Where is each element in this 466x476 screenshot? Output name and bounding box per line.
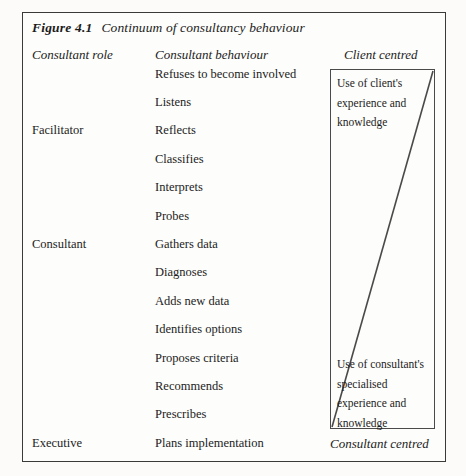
consultant-experience-text-line: knowledge bbox=[337, 414, 424, 434]
consultant-behaviour-label: Reflects bbox=[155, 121, 196, 139]
consultant-experience-text-line: experience and bbox=[337, 394, 424, 414]
consultant-behaviour-label: Prescribes bbox=[155, 405, 206, 423]
consultant-experience-text-line: specialised bbox=[337, 375, 424, 395]
consultant-experience-text-line: Use of consultant's bbox=[337, 355, 424, 375]
consultant-experience-text-block: Use of consultant'sspecialisedexperience… bbox=[337, 355, 424, 433]
continuum-row: Listens bbox=[0, 93, 330, 111]
consultant-behaviour-label: Plans implementation bbox=[155, 434, 264, 452]
consultant-behaviour-label: Proposes criteria bbox=[155, 349, 239, 367]
continuum-row: Diagnoses bbox=[0, 263, 330, 281]
consultant-behaviour-label: Refuses to become involved bbox=[155, 65, 296, 83]
client-experience-text-line: experience and bbox=[337, 94, 406, 114]
consultant-behaviour-label: Gathers data bbox=[155, 235, 218, 253]
consultant-behaviour-label: Recommends bbox=[155, 377, 223, 395]
consultant-behaviour-label: Interprets bbox=[155, 178, 203, 196]
client-experience-text-line: knowledge bbox=[337, 113, 406, 133]
continuum-row: ExecutivePlans implementation bbox=[0, 434, 330, 452]
client-experience-text-line: Use of client's bbox=[337, 74, 406, 94]
consultant-behaviour-label: Probes bbox=[155, 207, 189, 225]
consultant-role-label: Facilitator bbox=[32, 121, 83, 139]
continuum-row: Adds new data bbox=[0, 292, 330, 310]
continuum-row: Classifies bbox=[0, 150, 330, 168]
continuum-row: Identifies options bbox=[0, 320, 330, 338]
consultant-behaviour-label: Classifies bbox=[155, 150, 204, 168]
continuum-row: FacilitatorReflects bbox=[0, 121, 330, 139]
consultant-role-label: Consultant bbox=[32, 235, 86, 253]
continuum-row: Refuses to become involved bbox=[0, 65, 330, 83]
consultant-behaviour-label: Diagnoses bbox=[155, 263, 207, 281]
continuum-row: Recommends bbox=[0, 377, 330, 395]
continuum-row: ConsultantGathers data bbox=[0, 235, 330, 253]
client-experience-text-block: Use of client'sexperience andknowledge bbox=[337, 74, 406, 133]
consultant-role-label: Executive bbox=[32, 434, 82, 452]
label-consultant-centred: Consultant centred bbox=[330, 436, 429, 451]
continuum-row: Proposes criteria bbox=[0, 349, 330, 367]
continuum-row: Interprets bbox=[0, 178, 330, 196]
consultant-behaviour-label: Adds new data bbox=[155, 292, 229, 310]
continuum-row: Prescribes bbox=[0, 405, 330, 423]
consultant-behaviour-label: Listens bbox=[155, 93, 191, 111]
consultant-behaviour-label: Identifies options bbox=[155, 320, 242, 338]
continuum-row: Probes bbox=[0, 207, 330, 225]
